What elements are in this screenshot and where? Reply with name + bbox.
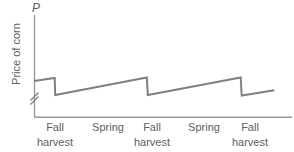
y-axis-title-text: Price of corn xyxy=(10,23,22,85)
price-of-corn-chart: P Price of corn Fall harvest Spring Fall… xyxy=(0,0,294,152)
x-tick-label-5-line1: Fall xyxy=(241,121,259,133)
x-tick-label-5-line2: harvest xyxy=(218,135,282,150)
x-tick-label-5: Fall harvest xyxy=(218,120,282,149)
x-tick-label-1-line1: Fall xyxy=(46,121,64,133)
x-tick-label-3-line2: harvest xyxy=(120,135,184,150)
corn-price-line xyxy=(34,78,274,96)
y-axis-title: Price of corn xyxy=(6,14,22,94)
x-tick-label-1-line2: harvest xyxy=(23,135,87,150)
x-tick-label-4-line1: Spring xyxy=(188,121,220,133)
x-tick-label-3-line1: Fall xyxy=(143,121,161,133)
y-axis-symbol: P xyxy=(32,1,40,15)
